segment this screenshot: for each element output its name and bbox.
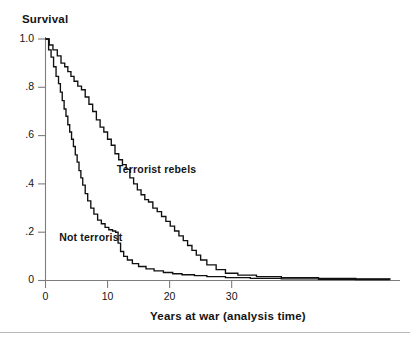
survival-curve	[46, 39, 390, 280]
series-label: Terrorist rebels	[117, 163, 196, 175]
x-tick-label: 20	[164, 290, 176, 302]
y-tick-label: 1.0	[19, 32, 34, 44]
x-axis-label: Years at war (analysis time)	[150, 310, 306, 322]
y-axis-ticks: 0.2.4.6.81.0	[19, 32, 45, 286]
series-label: Not terrorist	[59, 231, 123, 243]
y-tick-label: 0	[28, 273, 34, 285]
y-tick-label: .2	[25, 225, 34, 237]
page-title: Survival	[22, 13, 68, 25]
x-tick-label: 30	[226, 290, 238, 302]
survival-curve	[46, 39, 390, 279]
x-tick-label: 0	[43, 290, 49, 302]
x-tick-label: 10	[102, 290, 114, 302]
chart-canvas: Survival 0.2.4.6.81.0 0102030 Not terror…	[0, 0, 410, 337]
x-axis-ticks: 0102030	[43, 281, 238, 302]
survival-chart-figure: Survival 0.2.4.6.81.0 0102030 Not terror…	[0, 0, 410, 337]
y-tick-label: .6	[25, 128, 34, 140]
series-curves	[46, 39, 390, 280]
y-tick-label: .4	[25, 177, 34, 189]
y-tick-label: .8	[25, 80, 34, 92]
